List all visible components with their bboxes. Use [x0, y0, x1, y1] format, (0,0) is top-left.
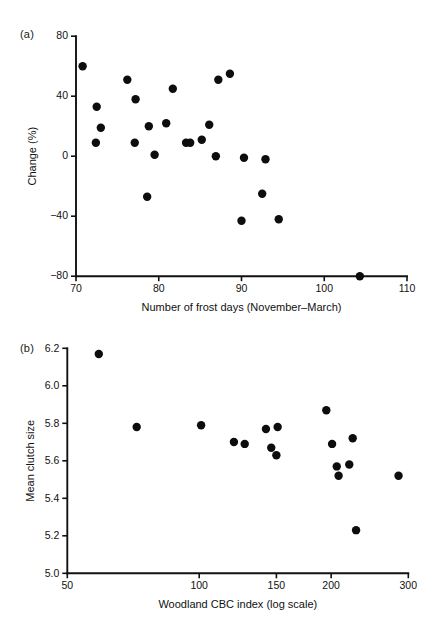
data-point — [214, 76, 222, 84]
x-tick-label: 110 — [399, 282, 416, 294]
y-tick-label: 6.2 — [45, 342, 60, 354]
panel-a: (a) −80−4004080708090100110Number of fro… — [0, 0, 442, 320]
y-tick-label: 40 — [56, 89, 68, 101]
x-tick-label: 50 — [61, 579, 73, 591]
data-point — [261, 155, 269, 163]
x-tick-label: 300 — [400, 579, 418, 591]
data-point — [258, 190, 266, 198]
data-point — [186, 139, 194, 147]
x-tick-label: 70 — [70, 282, 82, 294]
y-tick-label: 0 — [62, 149, 68, 161]
x-tick-label: 150 — [268, 579, 286, 591]
data-point — [237, 217, 245, 225]
y-tick-label: 80 — [56, 29, 68, 41]
x-tick-label: 100 — [315, 282, 333, 294]
x-tick-label: 100 — [190, 579, 208, 591]
y-axis-title: Change (%) — [26, 127, 38, 186]
data-point — [145, 122, 153, 130]
y-tick-label: 5.6 — [45, 454, 60, 466]
data-point — [230, 438, 238, 446]
x-tick-label: 200 — [322, 579, 340, 591]
data-point — [198, 136, 206, 144]
data-point — [262, 425, 270, 433]
data-point — [273, 423, 281, 431]
data-point — [169, 85, 177, 93]
data-point — [328, 440, 336, 448]
data-point — [352, 526, 360, 534]
data-point — [333, 462, 341, 470]
data-point — [226, 70, 234, 78]
panel-b-plot: 5.05.25.45.65.86.06.250100150200300Woodl… — [0, 320, 442, 643]
x-tick-label: 90 — [236, 282, 248, 294]
y-tick-label: −40 — [50, 209, 68, 221]
data-point — [322, 406, 330, 414]
data-point — [240, 154, 248, 162]
data-point — [241, 440, 249, 448]
y-tick-label: 5.8 — [45, 417, 60, 429]
data-point — [275, 215, 283, 223]
data-point — [205, 121, 213, 129]
y-axis-title: Mean clutch size — [24, 420, 36, 502]
data-point — [131, 139, 139, 147]
data-point — [95, 350, 103, 358]
data-point — [131, 95, 139, 103]
data-point — [92, 103, 100, 111]
data-point — [97, 124, 105, 132]
y-tick-label: 5.2 — [45, 529, 60, 541]
x-axis-title: Woodland CBC index (log scale) — [158, 598, 317, 610]
figure-scatter-pair: (a) −80−4004080708090100110Number of fro… — [0, 0, 442, 643]
data-point — [212, 152, 220, 160]
data-point — [133, 423, 141, 431]
y-tick-label: 5.0 — [45, 567, 60, 579]
data-point — [334, 472, 342, 480]
panel-b: (b) 5.05.25.45.65.86.06.250100150200300W… — [0, 320, 442, 643]
panel-a-plot: −80−4004080708090100110Number of frost d… — [0, 0, 442, 323]
data-point — [150, 151, 158, 159]
y-tick-label: 5.4 — [45, 492, 60, 504]
x-axis-title: Number of frost days (November–March) — [142, 301, 342, 313]
data-point — [394, 472, 402, 480]
data-point — [349, 434, 357, 442]
data-point — [197, 421, 205, 429]
y-tick-label: −80 — [50, 269, 68, 281]
data-point — [162, 119, 170, 127]
data-point — [267, 443, 275, 451]
data-point — [78, 62, 86, 70]
data-point — [345, 460, 353, 468]
data-point — [356, 272, 364, 280]
data-point — [272, 451, 280, 459]
x-tick-label: 80 — [153, 282, 165, 294]
data-point — [123, 76, 131, 84]
data-point — [143, 193, 151, 201]
data-point — [92, 139, 100, 147]
y-tick-label: 6.0 — [45, 379, 60, 391]
